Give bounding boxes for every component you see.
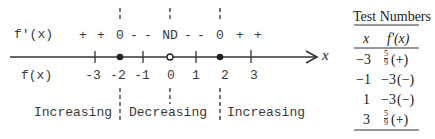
table-row-0-denominator: 9 — [384, 58, 388, 67]
open-dot-0-icon — [167, 54, 173, 60]
tick-label-3: 3 — [250, 68, 258, 83]
table-header-fprime: f'(x) — [387, 31, 409, 47]
filled-dot-neg2-icon — [117, 54, 124, 61]
tick-label-0: 0 — [167, 68, 175, 83]
table-row-3-x: 3 — [363, 112, 370, 128]
table-row-3-sign: (+) — [391, 112, 408, 128]
table-row-1-x: −1 — [356, 72, 371, 88]
filled-dot-2-icon — [217, 54, 224, 61]
interval-label-middle: Decreasing — [129, 105, 207, 120]
interval-label-right: Increasing — [227, 105, 305, 120]
sign-10: + — [254, 28, 262, 43]
table-title: Test Numbers — [353, 9, 431, 25]
sign-4: - — [144, 28, 152, 43]
tick-label-neg1: -1 — [134, 68, 150, 83]
derivative-label: f'(x) — [14, 27, 53, 42]
table-row-2-x: 1 — [363, 92, 370, 108]
sign-8: 0 — [216, 28, 224, 43]
table-row-2-value: −3 — [381, 92, 396, 108]
tick-label-1: 1 — [192, 68, 200, 83]
tick-label-2: 2 — [221, 68, 229, 83]
table-row-3-fraction: 5 9 — [384, 110, 388, 127]
sign-5: ND — [162, 28, 178, 43]
tick-label-neg3: -3 — [85, 68, 101, 83]
table-row-0-sign: (+) — [391, 52, 408, 68]
table-row-2-sign: (−) — [397, 92, 414, 108]
axis-variable-label: x — [322, 47, 329, 64]
sign-2: 0 — [116, 28, 124, 43]
function-label: f(x) — [21, 68, 52, 83]
sign-6: - — [184, 28, 192, 43]
table-header-x: x — [363, 31, 369, 47]
sign-0: + — [79, 28, 87, 43]
table-row-0-x: −3 — [356, 52, 371, 68]
table-row-1-sign: (−) — [397, 72, 414, 88]
table-row-3-denominator: 9 — [384, 118, 388, 127]
sign-1: + — [97, 28, 105, 43]
table-row-0-fraction: 5 9 — [384, 50, 388, 67]
sign-9: + — [236, 28, 244, 43]
table-row-3-numerator: 5 — [384, 110, 388, 118]
sign-3: - — [130, 28, 138, 43]
table-row-1-value: −3 — [381, 72, 396, 88]
tick-label-neg2: -2 — [110, 68, 126, 83]
sign-7: - — [197, 28, 205, 43]
interval-label-left: Increasing — [34, 105, 112, 120]
table-row-0-numerator: 5 — [384, 50, 388, 58]
